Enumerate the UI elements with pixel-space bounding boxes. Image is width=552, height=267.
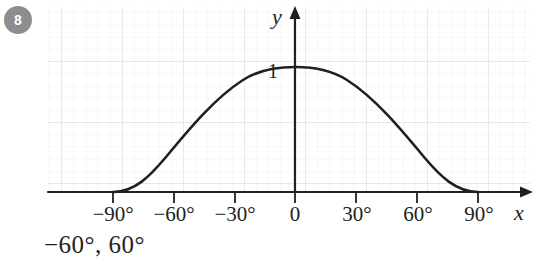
x-tick-label: 60° [403, 202, 432, 226]
cosine-graph-svg: 1 y x −90° −60° −30° 0 30° 60° 90° [0, 0, 552, 228]
x-axis-label: x [513, 200, 524, 225]
x-tick-label: −90° [92, 202, 133, 226]
x-tick-label: −30° [214, 202, 255, 226]
x-tick-label: 0 [290, 202, 301, 226]
answer-text: −60°, 60° [44, 228, 145, 262]
x-tick-label: 30° [342, 202, 371, 226]
x-tick-label: 90° [464, 202, 493, 226]
y-value-annotation-1: 1 [268, 60, 278, 82]
x-tick-label: −60° [153, 202, 194, 226]
grid-background [48, 4, 530, 192]
x-axis-tick-labels: −90° −60° −30° 0 30° 60° 90° [92, 202, 493, 226]
graph-figure: 1 y x −90° −60° −30° 0 30° 60° 90° [0, 0, 552, 228]
y-axis-label: y [270, 4, 282, 29]
